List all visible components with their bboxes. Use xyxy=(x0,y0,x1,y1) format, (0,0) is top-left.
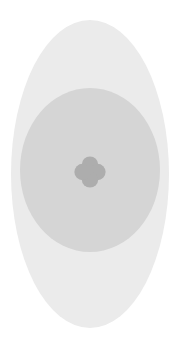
screenshot-canvas: Pale grey oval badge with a four-petal c… xyxy=(0,0,181,346)
clover-badge-graphic xyxy=(0,0,181,346)
clover-petal-left xyxy=(74,164,90,180)
